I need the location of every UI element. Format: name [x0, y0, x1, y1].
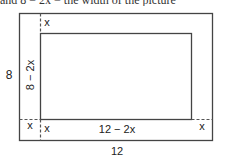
label-border-bottom-left-inner: x: [44, 122, 50, 134]
frame-diagram: 8 8 − 2x x x x x 12 − 2x 12: [0, 0, 228, 162]
label-inner-height: 8 − 2x: [24, 59, 36, 90]
label-inner-width: 12 − 2x: [99, 123, 136, 135]
label-outer-height: 8: [6, 68, 13, 82]
inner-rectangle: [41, 34, 192, 120]
label-outer-width: 12: [111, 145, 123, 157]
label-border-bottom-right: x: [199, 120, 205, 132]
label-border-top: x: [44, 16, 50, 28]
label-border-bottom-left-outer: x: [27, 119, 33, 131]
